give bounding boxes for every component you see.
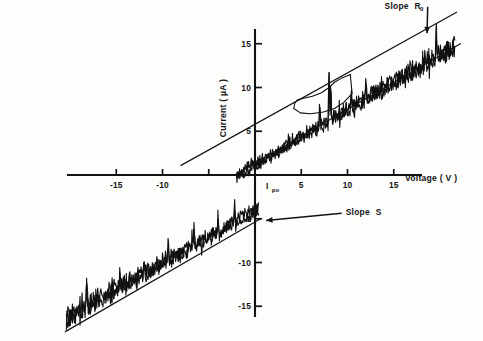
annotation-ipo-arrow: [252, 178, 258, 215]
y-axis-title: Current ( µA ): [218, 79, 228, 137]
y-tick-label-15: 15: [241, 39, 251, 49]
x-axis-title: Voltage ( V ): [405, 173, 457, 183]
annotation-slope-r0-label: Slope: [385, 1, 409, 11]
annotation-slope-r0: SlopeR0: [385, 1, 431, 34]
annotation-ipo-subscript: po: [272, 186, 280, 193]
figure-container: -15-1051015-15-10-551015 SlopeR0SlopeSIp…: [0, 0, 483, 341]
annotation-slope-s-arrow-shaft: [266, 213, 342, 220]
y-tick-label--10: -10: [238, 258, 251, 268]
annotation-slope-s: SlopeS: [266, 207, 382, 223]
x-tick-label-10: 10: [343, 180, 353, 190]
y-tick-label-5: 5: [246, 126, 251, 136]
annotation-slope-s-label: Slope: [346, 207, 370, 217]
fit-line-slope-s-lower: [65, 219, 260, 332]
annotation-slope-r0-subscript: 0: [420, 5, 424, 12]
x-tick-label-5: 5: [299, 180, 304, 190]
trace-negative-branch-sweep-2: [66, 205, 258, 327]
x-tick-label-15: 15: [389, 180, 399, 190]
annotation-slope-s-symbol: S: [376, 207, 382, 217]
y-tick-label--5: -5: [243, 214, 251, 224]
x-tick-label--15: -15: [110, 180, 123, 190]
y-tick-label--15: -15: [238, 301, 251, 311]
data-series-group: [65, 12, 460, 331]
annotation-slope-s-arrow: [266, 213, 342, 223]
iv-characteristic-chart: -15-1051015-15-10-551015 SlopeR0SlopeSIp…: [0, 0, 483, 341]
y-tick-label-10: 10: [241, 83, 251, 93]
annotation-ipo: Ipo: [252, 178, 279, 215]
x-tick-label--10: -10: [156, 180, 169, 190]
annotation-ipo-symbol: I: [266, 181, 269, 191]
